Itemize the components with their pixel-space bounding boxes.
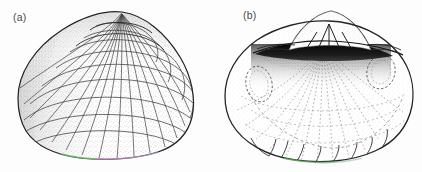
figure-plate: (a) [0,0,422,172]
shell-exterior-drawing [0,0,211,172]
panel-b-interior-view: (b) [211,0,422,172]
panel-a-exterior-view: (a) [0,0,211,172]
shell-a-body [0,0,211,172]
shell-interior-drawing [211,0,422,172]
